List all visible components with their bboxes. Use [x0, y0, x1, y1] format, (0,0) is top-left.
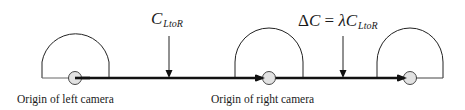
diagram-svg: CLtoR ΔC = λCLtoR Origin of left camera … — [0, 0, 465, 110]
right-camera-fov-icon — [235, 28, 303, 78]
delta-c-pointer-arrow-icon — [340, 36, 347, 78]
left-camera-origin-label: Origin of left camera — [17, 93, 114, 106]
right-camera-origin-label: Origin of right camera — [211, 93, 314, 106]
c-ltor-label: CLtoR — [151, 9, 183, 29]
c-ltor-pointer-arrow-icon — [166, 36, 173, 78]
diagram-canvas: CLtoR ΔC = λCLtoR Origin of left camera … — [0, 0, 465, 110]
shifted-camera-fov-icon — [377, 28, 443, 78]
delta-c-equation: ΔC = λCLtoR — [298, 11, 378, 31]
